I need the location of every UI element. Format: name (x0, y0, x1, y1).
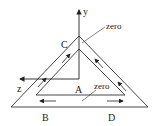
zero-top-label: zero (106, 21, 122, 31)
flow-arrow-left-upper (62, 54, 70, 63)
zero-bottom-label: zero (94, 81, 110, 91)
z-axis-label: z (17, 83, 22, 94)
zero-top-leader (82, 27, 105, 43)
y-axis-label: y (83, 6, 88, 17)
point-d-label: D (108, 112, 115, 123)
point-a-label: A (75, 84, 83, 95)
point-c-label: C (61, 39, 68, 50)
outer-triangle (11, 36, 148, 107)
cross-section-diagram: y zero C z A zero B D (0, 0, 155, 126)
point-b-label: B (42, 112, 49, 123)
zero-bottom-leader (82, 90, 96, 101)
